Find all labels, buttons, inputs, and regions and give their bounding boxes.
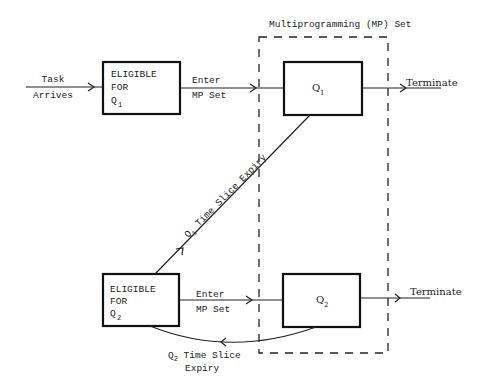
eligible-q2-line2: FOR (110, 296, 127, 307)
q1-expiry-rest: Time Slice Expiry (189, 152, 269, 233)
eligible-q1-line1: ELIGIBLE (111, 69, 157, 80)
scheduling-diagram: Multiprogramming (MP) Set Task Arrives E… (0, 0, 484, 389)
q2-expiry-label2: Expiry (185, 363, 220, 374)
q2-expiry-curve (150, 326, 316, 342)
enter-mp-1-label2: MP Set (192, 90, 226, 101)
node-eligible-q1: ELIGIBLE FOR Q 1 (103, 62, 180, 114)
enter-mp-1-label1: Enter (192, 75, 221, 86)
edge-q1-expiry: Q1 Time Slice Expiry (155, 115, 310, 274)
edge-terminate-2: Terminate (360, 286, 462, 302)
eligible-q2-sub: 2 (117, 314, 121, 322)
edge-q2-expiry: Q2 Time Slice Expiry (150, 326, 316, 374)
q1-q: Q (312, 82, 320, 93)
eligible-q1-q: Q (111, 95, 117, 106)
terminate-2-label: Terminate (410, 286, 462, 297)
q1-sub: 1 (320, 89, 324, 97)
edge-enter-mp-1: Enter MP Set (180, 75, 284, 101)
node-q1: Q 1 (284, 62, 362, 115)
edge-task-arrives: Task Arrives (26, 74, 102, 101)
eligible-q2-q: Q (110, 308, 116, 319)
eligible-q1-line2: FOR (111, 82, 128, 93)
terminate-1-label: Terminate (406, 77, 458, 88)
q2-expiry-label1: Q2 Time Slice (168, 350, 241, 363)
edge-terminate-1: Terminate (362, 77, 458, 92)
enter-mp-2-label2: MP Set (196, 304, 230, 315)
mp-set-title: Multiprogramming (MP) Set (269, 19, 412, 30)
q2-expiry-rest: Time Slice (178, 350, 241, 361)
eligible-q1-sub: 1 (118, 101, 122, 109)
node-eligible-q2: ELIGIBLE FOR Q 2 (103, 274, 179, 326)
eligible-q2-line1: ELIGIBLE (110, 284, 156, 295)
edge-enter-mp-2: Enter MP Set (179, 289, 283, 315)
arrives-label: Arrives (33, 90, 73, 101)
task-label: Task (42, 74, 65, 85)
node-q2: Q 2 (283, 274, 360, 327)
q2-q: Q (316, 294, 324, 305)
q2-sub: 2 (324, 301, 328, 309)
enter-mp-2-label1: Enter (196, 289, 225, 300)
q1-expiry-label: Q1 Time Slice Expiry (182, 152, 270, 242)
